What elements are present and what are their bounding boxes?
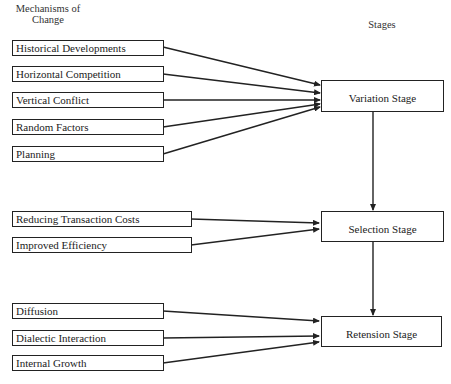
stage-selection-label: Selection Stage	[348, 223, 416, 235]
mechanism-dialectic-interaction: Dialectic Interaction	[12, 330, 164, 346]
mechanism-vertical-conflict: Vertical Conflict	[12, 92, 164, 108]
arrow-horizontal-to-variation	[163, 74, 320, 93]
arrow-planning-to-variation	[163, 107, 320, 154]
arrow-internal-to-retension	[163, 342, 319, 363]
mechanism-improved-efficiency: Improved Efficiency	[12, 237, 192, 253]
arrow-random-to-variation	[163, 104, 320, 127]
stage-retension: Retension Stage	[321, 316, 442, 347]
arrow-diffusion-to-retension	[163, 311, 319, 321]
stage-variation: Variation Stage	[321, 80, 444, 112]
stage-selection: Selection Stage	[321, 211, 444, 242]
mechanism-diffusion: Diffusion	[12, 303, 164, 319]
arrow-historical-to-variation	[163, 47, 320, 85]
mechanism-internal-growth: Internal Growth	[12, 355, 164, 371]
mechanism-horizontal-competition: Horizontal Competition	[12, 66, 164, 82]
mechanism-random-factors: Random Factors	[12, 119, 164, 135]
arrow-efficiency-to-selection	[191, 229, 319, 245]
mechanism-historical-developments: Historical Developments	[12, 40, 164, 56]
arrow-transaction-to-selection	[191, 219, 319, 223]
arrow-dialectic-to-retension	[163, 336, 319, 338]
stage-variation-label: Variation Stage	[349, 92, 417, 104]
mechanism-planning: Planning	[12, 146, 164, 162]
stage-retension-label: Retension Stage	[346, 328, 417, 340]
mechanism-reducing-transaction-costs: Reducing Transaction Costs	[12, 211, 192, 227]
